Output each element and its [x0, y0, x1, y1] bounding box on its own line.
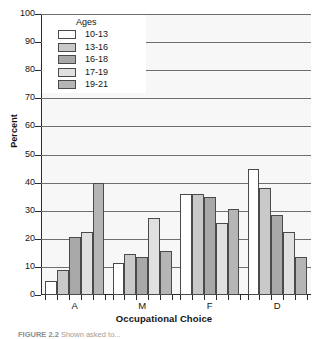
bar	[160, 251, 172, 295]
legend-swatch	[58, 55, 76, 64]
bar	[124, 254, 136, 295]
bar	[216, 223, 228, 295]
figure-bar-chart: Percent 0102030405060708090100 AMFD Occu…	[0, 0, 328, 339]
bar	[248, 169, 260, 295]
y-axis-tick	[35, 295, 41, 296]
y-axis-tick-label: 90	[9, 36, 35, 46]
x-axis-tick	[105, 295, 106, 300]
legend-swatch	[58, 80, 76, 89]
figure-caption-text: Shown asked to...	[61, 330, 121, 339]
bar	[180, 194, 192, 295]
bar	[204, 197, 216, 295]
figure-caption-label: FIGURE 2.2	[18, 330, 59, 339]
bar	[271, 215, 283, 295]
y-axis-tick-label: 10	[9, 261, 35, 271]
y-axis-tick-label: 50	[9, 149, 35, 159]
bar	[136, 257, 148, 295]
legend-label: 13-16	[85, 42, 108, 52]
x-axis-title: Occupational Choice	[0, 313, 328, 324]
bar	[93, 183, 105, 295]
x-axis-tick	[248, 295, 249, 300]
legend-label: 10-13	[85, 29, 108, 39]
bar	[283, 232, 295, 295]
x-axis-group-label: D	[257, 300, 297, 311]
x-axis-tick	[180, 295, 181, 300]
y-axis-tick-label: 80	[9, 64, 35, 74]
y-axis-tick-label: 0	[9, 289, 35, 299]
bar	[148, 218, 160, 295]
legend-label: 19-21	[85, 79, 108, 89]
y-axis-title: Percent	[9, 91, 19, 171]
legend: Ages 10-1313-1616-1817-1919-21	[42, 15, 146, 93]
bar	[295, 257, 307, 295]
bar	[259, 188, 271, 295]
figure-caption: FIGURE 2.2 Shown asked to...	[18, 330, 318, 339]
bar	[192, 194, 204, 295]
x-axis-group-label: A	[55, 300, 95, 311]
legend-swatch	[58, 68, 76, 77]
bar	[69, 237, 81, 295]
legend-title: Ages	[76, 17, 97, 27]
bar	[113, 263, 125, 295]
legend-label: 16-18	[85, 54, 108, 64]
y-axis-tick-label: 100	[9, 8, 35, 18]
bar	[57, 270, 69, 295]
x-axis-tick	[240, 295, 241, 300]
x-axis-tick	[113, 295, 114, 300]
x-axis-tick	[307, 295, 308, 300]
bar	[228, 209, 240, 295]
x-axis-tick	[45, 295, 46, 300]
x-axis-group-label: F	[190, 300, 230, 311]
bar	[81, 232, 93, 295]
legend-swatch	[58, 43, 76, 52]
y-axis-tick-label: 20	[9, 233, 35, 243]
y-axis-tick-label: 40	[9, 177, 35, 187]
legend-label: 17-19	[85, 67, 108, 77]
y-axis-tick-label: 70	[9, 92, 35, 102]
y-axis-tick-label: 60	[9, 120, 35, 130]
x-axis-tick	[172, 295, 173, 300]
bar	[45, 281, 57, 295]
y-axis-tick-label: 30	[9, 205, 35, 215]
legend-swatch	[58, 30, 76, 39]
x-axis-group-label: M	[122, 300, 162, 311]
